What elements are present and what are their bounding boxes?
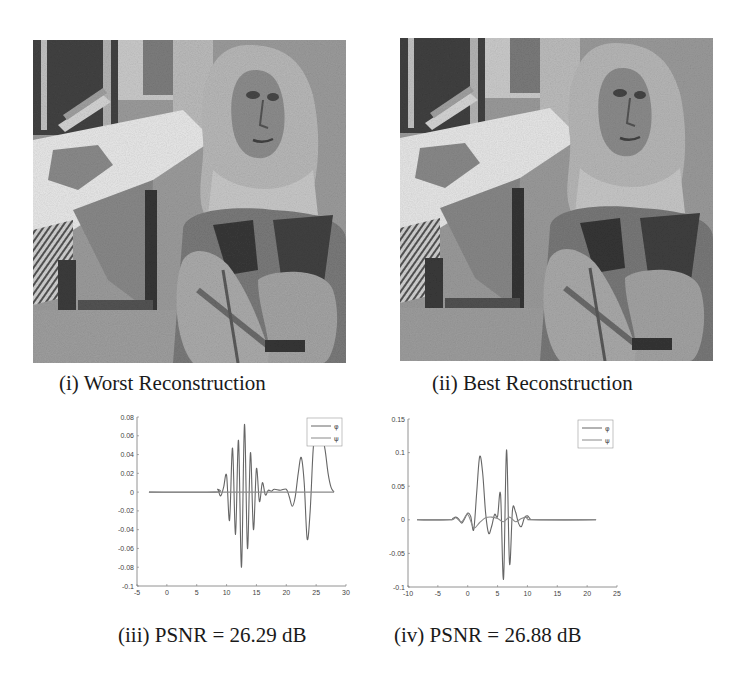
y-tick-label: 0.02 [120,470,134,477]
y-tick-label: -0.1 [122,583,134,590]
x-tick-label: 10 [524,590,532,597]
y-tick-label: -0.08 [118,564,134,571]
x-tick-label: 5 [496,590,500,597]
x-tick-label: 10 [223,589,231,596]
y-tick-label: 0.05 [391,483,405,490]
y-tick-label: 0.06 [120,432,134,439]
x-tick-label: 0 [165,589,169,596]
chart-iii: -50510152025300.080.060.040.020-0.02-0.0… [118,414,350,597]
x-tick-label: 20 [583,590,591,597]
y-tick-label: 0.08 [120,414,134,421]
y-tick-label: 0 [401,516,405,523]
x-tick-label: 5 [195,589,199,596]
legend-label: ψ [334,435,339,443]
worst-reconstruction-image [33,40,346,363]
series-phi-line [149,424,334,567]
caption-worst-reconstruction: (i) Worst Reconstruction [59,371,266,396]
caption-best-reconstruction: (ii) Best Reconstruction [432,371,633,396]
y-tick-label: -0.06 [118,545,134,552]
chart-iv: -10-505101520250.150.10.050-0.05-0.1φψ [389,416,621,598]
y-tick-label: 0.15 [391,416,405,423]
x-tick-label: -10 [403,590,413,597]
y-tick-label: 0 [130,489,134,496]
x-tick-label: 20 [282,589,290,596]
legend: φψ [307,418,342,446]
caption-psnr-iii: (iii) PSNR = 26.29 dB [118,623,307,648]
legend-label: φ [605,425,610,433]
y-tick-label: -0.05 [389,550,405,557]
y-tick-label: 0.1 [395,449,405,456]
y-tick-label: -0.04 [118,526,134,533]
x-tick-label: -5 [435,590,441,597]
y-tick-label: -0.1 [393,584,405,591]
x-tick-label: 15 [553,590,561,597]
x-tick-label: 15 [253,589,261,596]
x-tick-label: 25 [312,589,320,596]
y-tick-label: -0.02 [118,507,134,514]
x-tick-label: 0 [466,590,470,597]
best-reconstruction-image [400,38,713,361]
series-phi-line [417,450,596,580]
y-tick-label: 0.04 [120,451,134,458]
x-tick-label: 30 [342,589,350,596]
legend-label: φ [334,423,339,431]
legend-label: ψ [605,437,610,445]
legend: φψ [578,420,613,448]
caption-psnr-iv: (iv) PSNR = 26.88 dB [394,623,581,648]
x-tick-label: 25 [613,590,621,597]
series-psi-line [417,514,596,528]
x-tick-label: -5 [134,589,140,596]
